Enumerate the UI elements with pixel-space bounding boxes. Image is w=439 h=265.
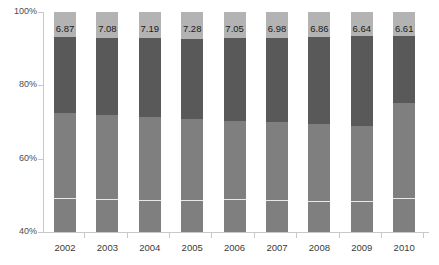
bar-value-label-2007: 6.98 xyxy=(260,23,294,34)
x-tick-2008 xyxy=(339,233,340,238)
bar-segment-bottom-2003 xyxy=(96,115,118,232)
bar-segment-middle-2002 xyxy=(54,37,76,113)
bar-segment-bottom-2004 xyxy=(139,117,161,232)
y-axis-labels: 100% 80% 60% 40% xyxy=(0,0,37,265)
bar-segment-bottom-2006 xyxy=(224,121,246,232)
bar-segment-bottom-2009 xyxy=(351,126,373,232)
x-tick-2003 xyxy=(127,233,128,238)
bar-inner-divider-2005 xyxy=(181,200,203,201)
y-axis-label-40: 40% xyxy=(3,227,37,236)
bar-2004[interactable] xyxy=(139,12,161,232)
bar-segment-middle-2006 xyxy=(224,38,246,121)
x-tick-2006 xyxy=(254,233,255,238)
bar-segment-middle-2003 xyxy=(96,38,118,115)
x-axis-label-2003: 2003 xyxy=(88,242,126,253)
bar-inner-divider-2008 xyxy=(308,201,330,202)
bar-segment-middle-2005 xyxy=(181,39,203,119)
bar-inner-divider-2007 xyxy=(266,200,288,201)
bar-value-label-2002: 6.87 xyxy=(48,23,82,34)
bar-value-label-2004: 7.19 xyxy=(133,23,167,34)
bar-inner-divider-2004 xyxy=(139,200,161,201)
bar-inner-divider-2010 xyxy=(393,198,415,199)
bar-inner-divider-2003 xyxy=(96,199,118,200)
x-axis-label-2008: 2008 xyxy=(300,242,338,253)
bar-segment-bottom-2007 xyxy=(266,122,288,232)
y-axis-label-80: 80% xyxy=(3,80,37,89)
x-axis-label-2004: 2004 xyxy=(131,242,169,253)
bar-segment-middle-2004 xyxy=(139,38,161,117)
x-axis-label-2006: 2006 xyxy=(216,242,254,253)
x-tick-2004 xyxy=(169,233,170,238)
bar-2010[interactable] xyxy=(393,12,415,232)
x-axis-label-2002: 2002 xyxy=(46,242,84,253)
x-tick-2002 xyxy=(84,233,85,238)
bar-2009[interactable] xyxy=(351,12,373,232)
bar-value-label-2010: 6.61 xyxy=(387,23,421,34)
bar-2007[interactable] xyxy=(266,12,288,232)
bar-inner-divider-2006 xyxy=(224,199,246,200)
bar-segment-bottom-2010 xyxy=(393,103,415,232)
x-axis-label-2005: 2005 xyxy=(173,242,211,253)
bar-value-label-2008: 6.86 xyxy=(302,23,336,34)
bar-2008[interactable] xyxy=(308,12,330,232)
y-axis-label-60: 60% xyxy=(3,154,37,163)
bar-value-label-2006: 7.05 xyxy=(218,23,252,34)
bar-value-label-2005: 7.28 xyxy=(175,23,209,34)
bar-segment-bottom-2005 xyxy=(181,119,203,232)
x-tick-2007 xyxy=(296,233,297,238)
bar-segment-middle-2007 xyxy=(266,38,288,123)
bar-segment-bottom-2002 xyxy=(54,113,76,232)
bar-segment-middle-2008 xyxy=(308,37,330,124)
x-tick-2005 xyxy=(211,233,212,238)
x-axis-line xyxy=(43,232,429,233)
y-axis-label-100: 100% xyxy=(3,7,37,16)
plot-area: 6.877.087.197.287.056.986.866.646.61 xyxy=(44,12,429,232)
x-tick-2010 xyxy=(423,233,424,238)
stacked-bar-chart: 100% 80% 60% 40% 6.877.087.197.287.056.9… xyxy=(0,0,439,265)
x-axis-label-2010: 2010 xyxy=(385,242,423,253)
bar-inner-divider-2002 xyxy=(54,198,76,199)
x-axis-label-2007: 2007 xyxy=(258,242,296,253)
x-tick-2009 xyxy=(381,233,382,238)
bar-value-label-2003: 7.08 xyxy=(90,23,124,34)
bar-segment-middle-2010 xyxy=(393,36,415,103)
bar-value-label-2009: 6.64 xyxy=(345,23,379,34)
bar-segment-middle-2009 xyxy=(351,36,373,126)
x-axis-label-2009: 2009 xyxy=(343,242,381,253)
bar-segment-bottom-2008 xyxy=(308,124,330,232)
bar-2006[interactable] xyxy=(224,12,246,232)
bar-2003[interactable] xyxy=(96,12,118,232)
bar-2005[interactable] xyxy=(181,12,203,232)
bar-inner-divider-2009 xyxy=(351,201,373,202)
bar-2002[interactable] xyxy=(54,12,76,232)
